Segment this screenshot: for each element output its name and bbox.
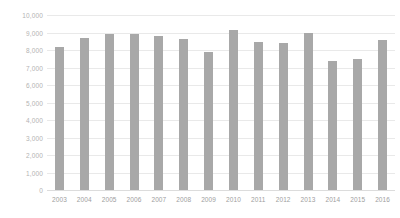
bar-slot [72, 15, 97, 190]
bar-2016[interactable] [378, 40, 387, 191]
bar-slot [196, 15, 221, 190]
bar-2010[interactable] [229, 30, 238, 190]
x-axis-tick-label: 2005 [97, 193, 122, 211]
x-axis-tick-label: 2011 [246, 193, 271, 211]
bar-2008[interactable] [179, 39, 188, 190]
y-axis-tick-label: 1,000 [0, 169, 43, 176]
bar-2013[interactable] [304, 33, 313, 190]
y-axis-tick-label: 9,000 [0, 29, 43, 36]
bar-2011[interactable] [254, 42, 263, 190]
x-axis-tick-label: 2008 [171, 193, 196, 211]
bar-slot [146, 15, 171, 190]
y-axis: 01,0002,0003,0004,0005,0006,0007,0008,00… [0, 15, 43, 190]
y-axis-tick-label: 0 [0, 187, 43, 194]
bar-2012[interactable] [279, 43, 288, 190]
y-axis-tick-label: 4,000 [0, 117, 43, 124]
bar-slot [171, 15, 196, 190]
x-axis-tick-label: 2006 [122, 193, 147, 211]
bar-slot [345, 15, 370, 190]
x-axis-tick-label: 2016 [370, 193, 395, 211]
bar-chart: 01,0002,0003,0004,0005,0006,0007,0008,00… [0, 0, 400, 218]
x-axis-tick-label: 2009 [196, 193, 221, 211]
bar-series [47, 15, 395, 190]
y-axis-tick-label: 2,000 [0, 152, 43, 159]
x-axis-tick-label: 2015 [345, 193, 370, 211]
bar-2014[interactable] [328, 61, 337, 191]
bar-slot [370, 15, 395, 190]
y-axis-tick-label: 5,000 [0, 99, 43, 106]
bar-slot [246, 15, 271, 190]
y-axis-tick-label: 10,000 [0, 12, 43, 19]
plot-area [47, 15, 395, 190]
x-axis-tick-label: 2007 [146, 193, 171, 211]
bar-slot [320, 15, 345, 190]
y-axis-tick-label: 7,000 [0, 64, 43, 71]
bar-slot [271, 15, 296, 190]
x-axis-tick-label: 2010 [221, 193, 246, 211]
x-axis-tick-label: 2014 [320, 193, 345, 211]
bar-slot [97, 15, 122, 190]
bar-2015[interactable] [353, 59, 362, 190]
y-axis-tick-label: 6,000 [0, 82, 43, 89]
x-axis: 2003200420052006200720082009201020112012… [47, 193, 395, 211]
bar-slot [296, 15, 321, 190]
bar-2004[interactable] [80, 38, 89, 190]
bar-slot [122, 15, 147, 190]
bar-slot [221, 15, 246, 190]
y-axis-tick-label: 8,000 [0, 47, 43, 54]
bar-2003[interactable] [55, 47, 64, 190]
bar-2007[interactable] [154, 36, 163, 190]
x-axis-tick-label: 2003 [47, 193, 72, 211]
gridline-0 [47, 190, 395, 191]
x-axis-tick-label: 2012 [271, 193, 296, 211]
bar-slot [47, 15, 72, 190]
bar-2005[interactable] [105, 34, 114, 190]
bar-2006[interactable] [130, 34, 139, 190]
x-axis-tick-label: 2013 [296, 193, 321, 211]
bar-2009[interactable] [204, 52, 213, 190]
y-axis-tick-label: 3,000 [0, 134, 43, 141]
x-axis-tick-label: 2004 [72, 193, 97, 211]
